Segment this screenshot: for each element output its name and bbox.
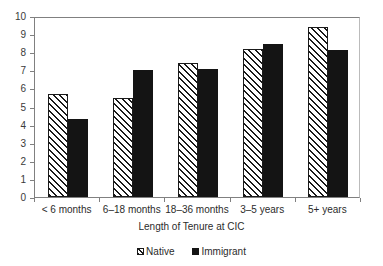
- bars-layer: [35, 18, 359, 197]
- legend-swatch-immigrant-icon: [192, 248, 199, 255]
- x-axis-title: Length of Tenure at CIC: [0, 221, 383, 233]
- x-axis-tick-label: 18–36 months: [164, 204, 229, 216]
- bar-immigrant-4: [328, 50, 348, 197]
- legend-label: Immigrant: [201, 246, 245, 257]
- bar-native-1: [113, 98, 133, 197]
- y-axis-tick-label: 3: [2, 139, 26, 149]
- y-axis-tick-label: 7: [2, 66, 26, 76]
- y-axis-tick-label: 6: [2, 84, 26, 94]
- bar-immigrant-1: [133, 70, 153, 197]
- y-axis-tick-label: 9: [2, 30, 26, 40]
- legend-entry-native: Native: [137, 246, 174, 257]
- x-axis-tick-mark: [34, 198, 35, 202]
- bar-native-3: [243, 49, 263, 197]
- x-axis-tick-mark: [164, 198, 165, 202]
- x-axis-tick-mark: [295, 198, 296, 202]
- y-axis-tick-label: 8: [2, 48, 26, 58]
- legend-swatch-native-icon: [137, 248, 144, 255]
- bar-native-2: [178, 63, 198, 197]
- bar-native-4: [308, 27, 328, 197]
- x-axis-tick-label: 5+ years: [295, 204, 360, 216]
- bar-immigrant-3: [263, 44, 283, 197]
- chart-legend: NativeImmigrant: [0, 246, 383, 257]
- y-axis-tick-label: 4: [2, 121, 26, 131]
- x-axis-tick-label: 6–18 months: [99, 204, 164, 216]
- bar-immigrant-0: [68, 119, 88, 197]
- x-axis-tick-mark: [230, 198, 231, 202]
- bar-immigrant-2: [198, 69, 218, 197]
- y-axis-tick-label: 10: [2, 12, 26, 22]
- chart-figure: 109876543210 Length of Tenure at CIC Nat…: [0, 0, 383, 266]
- legend-label: Native: [146, 246, 174, 257]
- y-axis-tick-label: 5: [2, 103, 26, 113]
- x-axis-tick-label: 3–5 years: [230, 204, 295, 216]
- x-axis-tick-mark: [99, 198, 100, 202]
- y-axis-tick-label: 2: [2, 157, 26, 167]
- x-axis-tick-mark: [360, 198, 361, 202]
- y-axis-tick-label: 1: [2, 175, 26, 185]
- legend-entry-immigrant: Immigrant: [192, 246, 245, 257]
- x-axis-tick-label: < 6 months: [34, 204, 99, 216]
- bar-native-0: [48, 94, 68, 197]
- y-axis-tick-label: 0: [2, 193, 26, 203]
- plot-area: [34, 17, 360, 198]
